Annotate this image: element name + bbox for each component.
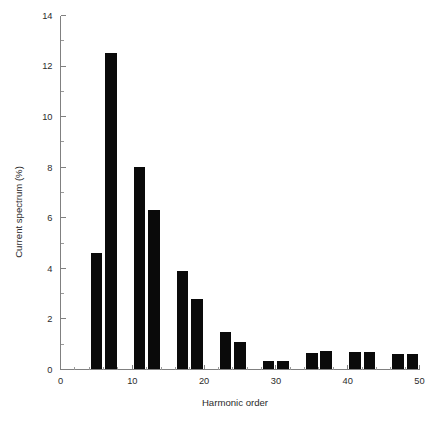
x-tick-label-50: 50 xyxy=(414,376,424,386)
y-tick-label-8: 8 xyxy=(47,163,52,173)
harmonic-spectrum-chart: 0246810121401020304050 Harmonic order Cu… xyxy=(0,0,448,421)
bar-harmonic-11 xyxy=(134,167,145,369)
y-tick-label-14: 14 xyxy=(42,11,52,21)
bar-harmonic-47 xyxy=(392,354,403,369)
bar-harmonic-17 xyxy=(177,271,188,370)
bar-series-group xyxy=(91,53,418,369)
y-tick-label-10: 10 xyxy=(42,112,52,122)
x-tick-label-0: 0 xyxy=(58,376,63,386)
bar-harmonic-5 xyxy=(91,253,102,369)
bar-harmonic-19 xyxy=(191,299,202,370)
bar-harmonic-13 xyxy=(148,210,159,369)
bar-harmonic-29 xyxy=(263,361,274,370)
chart-canvas: 0246810121401020304050 Harmonic order Cu… xyxy=(0,0,448,421)
bar-harmonic-25 xyxy=(234,342,245,370)
bar-harmonic-41 xyxy=(349,352,360,370)
bar-harmonic-35 xyxy=(306,353,317,369)
x-tick-label-40: 40 xyxy=(343,376,353,386)
y-axis-title: Current spectrum (%) xyxy=(13,166,24,258)
x-axis-title: Harmonic order xyxy=(202,397,269,408)
x-tick-label-20: 20 xyxy=(199,376,209,386)
y-tick-label-0: 0 xyxy=(47,365,52,375)
y-tick-label-6: 6 xyxy=(47,213,52,223)
x-tick-label-30: 30 xyxy=(271,376,281,386)
y-tick-label-12: 12 xyxy=(42,61,52,71)
x-tick-label-10: 10 xyxy=(127,376,137,386)
bar-harmonic-23 xyxy=(220,332,231,370)
y-tick-label-2: 2 xyxy=(47,314,52,324)
bar-harmonic-7 xyxy=(105,53,116,369)
bar-harmonic-43 xyxy=(364,352,375,370)
y-tick-label-4: 4 xyxy=(47,264,52,274)
bar-harmonic-49 xyxy=(407,354,418,369)
bar-harmonic-31 xyxy=(277,361,288,370)
bar-harmonic-37 xyxy=(320,351,331,370)
